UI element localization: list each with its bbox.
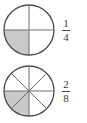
pie-svg-quarters xyxy=(0,2,58,58)
fraction-denominator: 4 xyxy=(62,32,70,43)
pie-chart-eighths xyxy=(0,63,58,119)
fraction-numerator: 1 xyxy=(62,18,70,29)
pie-chart-quarters xyxy=(0,2,58,58)
fraction-denominator: 8 xyxy=(62,93,70,104)
fraction-figure: 1 4 2 8 xyxy=(0,0,87,123)
fraction-diagram-two-eighths: 2 8 xyxy=(0,62,87,120)
fraction-numerator: 2 xyxy=(62,79,70,90)
fraction-label-one-fourth: 1 4 xyxy=(62,18,70,43)
fraction-label-two-eighths: 2 8 xyxy=(62,79,70,104)
pie-svg-eighths xyxy=(0,63,58,119)
fraction-diagram-one-fourth: 1 4 xyxy=(0,1,87,59)
